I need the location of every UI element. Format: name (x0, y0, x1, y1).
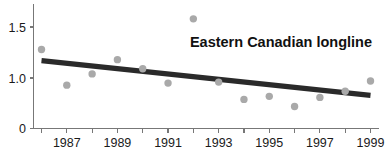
x-tick-label: 1991 (154, 136, 182, 150)
data-point (63, 81, 70, 88)
trend-line-group (42, 61, 371, 96)
data-point-group (38, 15, 374, 110)
x-tick-label: 1997 (306, 136, 334, 150)
data-point (114, 56, 121, 63)
x-tick-group: 1987198919911993199519971999 (42, 129, 385, 150)
data-point (88, 70, 95, 77)
data-point (190, 15, 197, 22)
x-tick-label: 1993 (205, 136, 233, 150)
y-tick-label: 1.0 (9, 72, 26, 86)
y-tick-group: 01.01.5 (9, 21, 34, 137)
data-point (367, 77, 374, 84)
y-tick-label: 1.5 (9, 21, 26, 35)
data-point (341, 88, 348, 95)
data-point (240, 96, 247, 103)
chart-container: 01.01.5 1987198919911993199519971999 Eas… (0, 0, 386, 159)
scatter-plot: 01.01.5 1987198919911993199519971999 Eas… (0, 0, 386, 159)
x-tick-label: 1995 (255, 136, 283, 150)
data-point (38, 46, 45, 53)
data-point (316, 94, 323, 101)
x-tick-label: 1999 (357, 136, 385, 150)
trend-line (42, 61, 371, 96)
y-tick-label: 0 (19, 122, 26, 136)
data-point (139, 65, 146, 72)
data-point (291, 103, 298, 110)
x-axis: 1987198919911993199519971999 (34, 129, 385, 150)
y-axis: 01.01.5 (9, 4, 34, 136)
data-point (215, 78, 222, 85)
chart-title: Eastern Canadian longline (190, 34, 372, 50)
x-tick-label: 1989 (104, 136, 132, 150)
x-tick-label: 1987 (53, 136, 81, 150)
data-point (266, 93, 273, 100)
data-point (164, 79, 171, 86)
